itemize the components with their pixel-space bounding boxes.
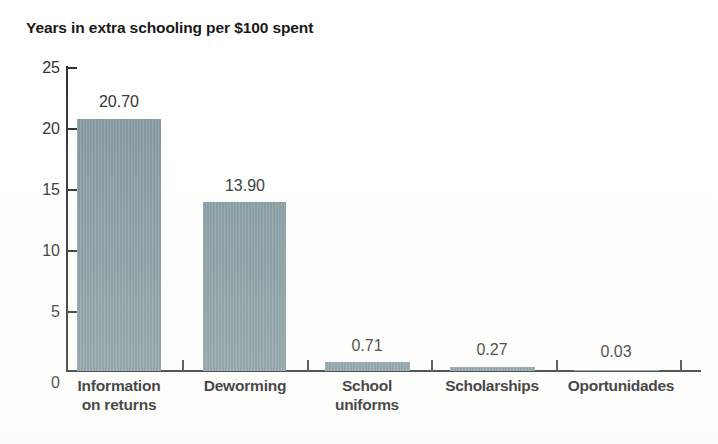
x-category-label-oportunidades: Oportunidades [551,376,691,395]
value-label-deworming: 13.90 [205,178,285,194]
bar-oportunidades[interactable] [574,370,659,371]
x-category-line-1: Deworming [185,376,305,395]
x-category-line-1: School [307,376,427,395]
x-category-line-2: uniforms [307,395,427,414]
bars-layer [0,0,718,371]
value-label-oportunidades: 0.03 [576,344,656,360]
x-category-label-scholarships: Scholarships [427,376,557,395]
y-tick-label-0: 0 [22,375,60,391]
x-category-line-2: on returns [59,395,179,414]
x-category-line-1: Information [59,376,179,395]
bar-chart: Years in extra schooling per $100 spent … [0,0,718,444]
bar-information-on-returns[interactable] [77,119,161,371]
value-label-scholarships: 0.27 [452,342,532,358]
value-label-information-on-returns: 20.70 [79,94,159,110]
bar-scholarships[interactable] [450,367,535,371]
x-category-label-information-on-returns: Information on returns [59,376,179,414]
bar-school-uniforms[interactable] [325,362,410,371]
value-label-school-uniforms: 0.71 [327,338,407,354]
x-category-line-1: Oportunidades [551,376,691,395]
x-category-line-1: Scholarships [427,376,557,395]
bar-deworming[interactable] [203,202,286,371]
x-category-label-deworming: Deworming [185,376,305,395]
x-category-label-school-uniforms: School uniforms [307,376,427,414]
